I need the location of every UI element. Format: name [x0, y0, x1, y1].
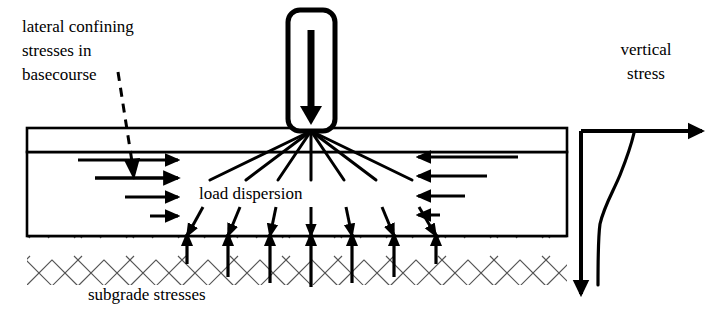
subgrade-layer: [27, 236, 567, 285]
label-vertical-stress-line1: vertical: [621, 40, 672, 59]
label-load-dispersion: load dispersion: [199, 184, 303, 203]
figure-canvas: lateral confining stresses in basecourse…: [0, 0, 715, 319]
label-lateral-confining-line1: lateral confining: [22, 17, 134, 36]
label-subgrade-stresses: subgrade stresses: [88, 285, 206, 304]
label-lateral-confining-line3: basecourse: [22, 65, 97, 84]
stress-distribution-curve: [598, 133, 634, 285]
label-vertical-stress-line2: stress: [627, 64, 665, 83]
pavement-load-diagram: lateral confining stresses in basecourse…: [0, 0, 715, 319]
vertical-stress-plot: [581, 131, 702, 294]
wheel-load-block: [288, 10, 335, 131]
label-lateral-confining-line2: stresses in: [22, 41, 92, 60]
